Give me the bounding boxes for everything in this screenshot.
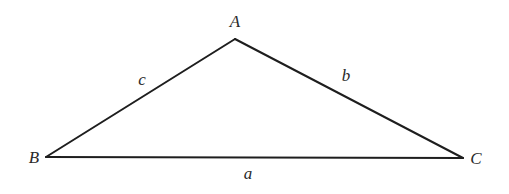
vertex-c-label: C	[470, 149, 482, 168]
side-c-label: c	[138, 70, 146, 89]
vertex-a-label: A	[229, 12, 241, 31]
side-a-label: a	[244, 164, 253, 183]
side-a-line	[46, 157, 463, 158]
side-b-line	[235, 39, 463, 158]
side-b-label: b	[342, 66, 351, 85]
vertex-b-label: B	[29, 148, 40, 167]
triangle-diagram: A B C a b c	[0, 0, 509, 194]
side-c-line	[46, 39, 235, 157]
